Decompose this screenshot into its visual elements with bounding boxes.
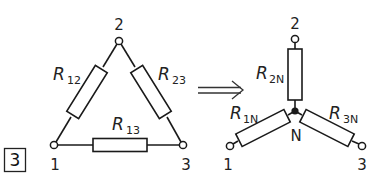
wire-1-r1n	[233, 141, 238, 144]
svg-text:3N: 3N	[343, 113, 358, 126]
figure-number-box: 3	[5, 149, 26, 172]
wire-r3n-3	[352, 141, 359, 144]
delta-node-label-2: 2	[114, 16, 124, 34]
delta-network: 2 1 3 R 12 R 23 R 13	[50, 16, 191, 174]
star-terminal-1	[226, 142, 233, 149]
svg-text:12: 12	[67, 74, 81, 87]
resistor-r13	[93, 139, 147, 152]
delta-terminal-3	[179, 141, 186, 148]
delta-star-transformation-diagram: 3 2 1 3 R 12 R	[0, 0, 382, 187]
label-r2n: R 2N	[256, 63, 284, 86]
svg-text:R: R	[329, 103, 341, 123]
delta-node-label-1: 1	[50, 156, 60, 174]
figure-number-label: 3	[10, 150, 21, 170]
label-r13: R 13	[112, 114, 140, 137]
delta-terminal-1	[50, 141, 57, 148]
star-node-label-2: 2	[290, 15, 300, 33]
label-r12: R 12	[53, 64, 81, 87]
svg-text:R: R	[230, 103, 242, 123]
wire-1-r12	[56, 117, 71, 142]
svg-text:23: 23	[172, 74, 186, 87]
star-center-label: N	[290, 127, 301, 145]
implies-arrow-icon	[198, 81, 243, 99]
label-r23: R 23	[158, 64, 186, 87]
star-node-label-1: 1	[223, 156, 233, 174]
delta-node-label-3: 3	[181, 156, 191, 174]
svg-text:R: R	[158, 64, 170, 84]
star-network: 2 1 3 N R 2N R 1N R 3N	[223, 15, 367, 174]
delta-terminal-2	[115, 37, 122, 44]
wire-r23-3	[167, 117, 181, 142]
label-r1n: R 1N	[230, 103, 258, 126]
svg-text:R: R	[112, 114, 124, 134]
resistor-r2n	[288, 49, 302, 100]
svg-text:R: R	[53, 64, 65, 84]
wire-r12-2	[103, 44, 117, 67]
star-terminal-3	[358, 142, 365, 149]
star-center-node-n	[291, 107, 298, 114]
star-node-label-3: 3	[357, 156, 367, 174]
svg-text:2N: 2N	[269, 73, 284, 86]
svg-text:1N: 1N	[243, 113, 258, 126]
svg-text:R: R	[256, 63, 268, 83]
label-r3n: R 3N	[329, 103, 358, 126]
wire-2-r23	[121, 44, 135, 67]
svg-text:13: 13	[126, 124, 140, 137]
star-terminal-2	[291, 35, 298, 42]
